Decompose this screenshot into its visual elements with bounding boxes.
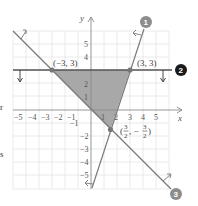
svg-text:−4: −4 xyxy=(28,113,37,122)
svg-text:2: 2 xyxy=(179,66,184,75)
svg-text:5: 5 xyxy=(154,113,158,122)
svg-text:(: ( xyxy=(120,126,123,136)
vertex-label-neg3-3: (−3, 3) xyxy=(53,58,78,68)
shade-arrow-up-right-icon xyxy=(21,31,26,39)
y-axis-label: y xyxy=(79,13,84,23)
svg-text:1: 1 xyxy=(84,93,88,102)
svg-text:3: 3 xyxy=(143,123,147,131)
svg-text:−2: −2 xyxy=(54,113,63,122)
x-tick-labels: −5 −4 −3 −2 −1 1 2 3 4 5 xyxy=(14,113,158,122)
x-axis-label: x xyxy=(177,113,182,123)
svg-text:2: 2 xyxy=(84,80,88,89)
cropped-text-fragment: s xyxy=(0,149,4,159)
vertex-label-3half-neg3half: ( 3 2 , − 3 2 ) xyxy=(120,123,151,140)
svg-text:−2: −2 xyxy=(80,132,89,141)
inequality-graph: x y −5 −4 −3 −2 −1 1 2 3 4 5 1 2 4 5 −1 … xyxy=(0,0,198,206)
svg-text:3: 3 xyxy=(124,123,128,131)
svg-text:2: 2 xyxy=(143,132,147,140)
svg-text:): ) xyxy=(148,126,151,136)
svg-text:1: 1 xyxy=(144,18,149,27)
svg-text:−4: −4 xyxy=(80,158,89,167)
cropped-text-fragment: r xyxy=(0,102,3,112)
svg-text:−3: −3 xyxy=(80,145,89,154)
svg-text:3: 3 xyxy=(174,190,179,199)
vertex-point xyxy=(108,127,113,132)
svg-text:−5: −5 xyxy=(14,113,23,122)
svg-text:−3: −3 xyxy=(41,113,50,122)
svg-text:−5: −5 xyxy=(80,171,89,180)
svg-text:3: 3 xyxy=(128,113,132,122)
svg-text:5: 5 xyxy=(84,40,88,49)
vertex-point xyxy=(127,67,132,72)
vertex-label-3-3: (3, 3) xyxy=(137,58,157,68)
vertex-point xyxy=(49,67,54,72)
svg-text:4: 4 xyxy=(141,113,145,122)
svg-text:−1: −1 xyxy=(70,119,79,128)
svg-text:, −: , − xyxy=(129,126,139,136)
svg-text:2: 2 xyxy=(124,132,128,140)
svg-text:4: 4 xyxy=(84,53,88,62)
